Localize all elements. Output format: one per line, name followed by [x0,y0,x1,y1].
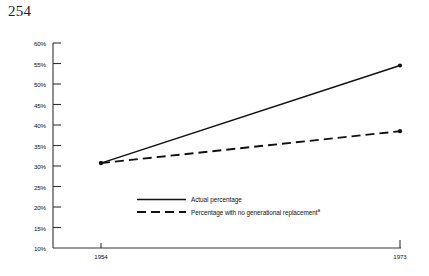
y-tick-label-45: 45% [20,102,46,109]
legend-label-no-generational-replacement: Percentage with no generational replacem… [191,209,320,216]
x-tick-label-1954: 1954 [86,253,116,260]
y-tick-label-35: 35% [20,143,46,150]
y-tick-label-60: 60% [20,40,46,47]
y-tick-label-10: 10% [20,245,46,252]
legend-footnote-marker: a [317,207,320,212]
series-line-no-generational-replacement [101,131,400,163]
x-tick-label-1973: 1973 [385,253,415,260]
series-marker-actual-percentage-1973 [398,63,402,67]
chart-figure: 60% 55% 50% 45% 40% 35% 30% 25% 20% 15% … [0,0,429,276]
y-tick-label-40: 40% [20,122,46,129]
y-axis-ticks [53,43,61,228]
y-tick-label-50: 50% [20,81,46,88]
series-marker-no-generational-replacement-1973 [398,129,402,133]
series-line-actual-percentage [101,66,400,164]
y-tick-label-55: 55% [20,61,46,68]
y-tick-label-30: 30% [20,163,46,170]
y-tick-label-25: 25% [20,184,46,191]
x-axis-ticks [101,240,400,248]
series-marker-no-generational-replacement-1954 [99,161,103,165]
y-tick-label-15: 15% [20,225,46,232]
line-chart [0,0,429,276]
y-tick-label-20: 20% [20,204,46,211]
legend-label-text: Percentage with no generational replacem… [191,209,317,216]
legend-label-actual-percentage: Actual percentage [191,196,242,203]
